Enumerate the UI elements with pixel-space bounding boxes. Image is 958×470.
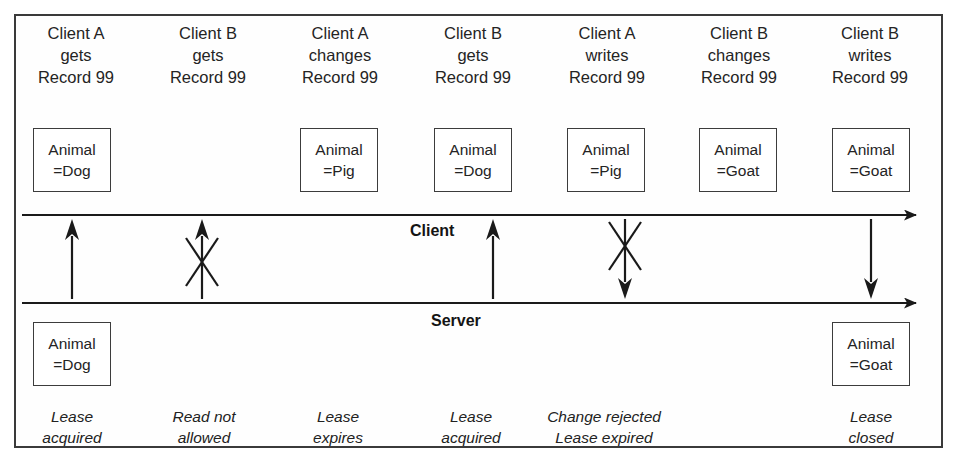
column-header-1: Client A gets Record 99 <box>12 22 140 88</box>
record-field-name: Animal <box>847 139 894 160</box>
column-header-line: writes <box>806 44 934 66</box>
client-record-box-5: Animal =Pig <box>567 128 645 192</box>
column-header-7: Client B writes Record 99 <box>806 22 934 88</box>
client-record-box-3: Animal =Pig <box>300 128 378 192</box>
server-record-box-1: Animal =Dog <box>33 322 111 386</box>
caption-line: closed <box>786 427 956 448</box>
caption-7: Lease closed <box>786 406 956 448</box>
server-record-box-7: Animal =Goat <box>832 322 910 386</box>
column-header-line: Client B <box>144 22 272 44</box>
server-lane-label: Server <box>431 312 481 330</box>
record-field-value: =Goat <box>717 160 760 181</box>
caption-line: Lease expired <box>519 427 689 448</box>
record-field-name: Animal <box>48 333 95 354</box>
record-field-name: Animal <box>48 139 95 160</box>
column-header-line: Client B <box>675 22 803 44</box>
caption-5: Change rejected Lease expired <box>519 406 689 448</box>
record-field-value: =Pig <box>590 160 621 181</box>
column-header-line: Client B <box>409 22 537 44</box>
column-header-line: Record 99 <box>12 66 140 88</box>
column-header-4: Client B gets Record 99 <box>409 22 537 88</box>
column-header-6: Client B changes Record 99 <box>675 22 803 88</box>
record-field-value: =Dog <box>454 160 492 181</box>
record-field-value: =Dog <box>53 160 91 181</box>
column-header-line: Record 99 <box>144 66 272 88</box>
column-header-line: Client B <box>806 22 934 44</box>
client-record-box-6: Animal =Goat <box>699 128 777 192</box>
column-header-line: gets <box>409 44 537 66</box>
client-record-box-7: Animal =Goat <box>832 128 910 192</box>
record-field-name: Animal <box>714 139 761 160</box>
column-header-line: gets <box>12 44 140 66</box>
record-field-name: Animal <box>847 333 894 354</box>
record-field-name: Animal <box>449 139 496 160</box>
column-header-line: Record 99 <box>543 66 671 88</box>
client-lane-label: Client <box>410 222 454 240</box>
column-header-line: changes <box>276 44 404 66</box>
record-field-value: =Pig <box>323 160 354 181</box>
column-header-line: gets <box>144 44 272 66</box>
column-header-line: Client A <box>543 22 671 44</box>
column-header-line: changes <box>675 44 803 66</box>
column-header-5: Client A writes Record 99 <box>543 22 671 88</box>
column-header-line: Client A <box>12 22 140 44</box>
client-record-box-4: Animal =Dog <box>434 128 512 192</box>
caption-line: Lease <box>786 406 956 427</box>
column-header-line: writes <box>543 44 671 66</box>
caption-line: Change rejected <box>519 406 689 427</box>
column-header-line: Record 99 <box>409 66 537 88</box>
record-field-value: =Goat <box>850 354 893 375</box>
column-header-line: Record 99 <box>276 66 404 88</box>
column-header-line: Record 99 <box>675 66 803 88</box>
record-field-name: Animal <box>582 139 629 160</box>
record-field-value: =Dog <box>53 354 91 375</box>
column-header-2: Client B gets Record 99 <box>144 22 272 88</box>
record-field-name: Animal <box>315 139 362 160</box>
column-header-3: Client A changes Record 99 <box>276 22 404 88</box>
column-header-line: Client A <box>276 22 404 44</box>
record-field-value: =Goat <box>850 160 893 181</box>
lease-timeline-diagram: Client A gets Record 99 Client B gets Re… <box>0 0 958 470</box>
client-record-box-1: Animal =Dog <box>33 128 111 192</box>
column-header-line: Record 99 <box>806 66 934 88</box>
